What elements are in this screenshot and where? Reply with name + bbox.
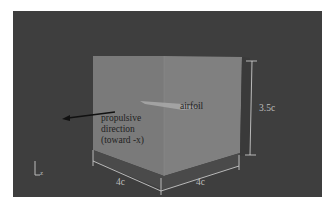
height-dimension-line bbox=[250, 61, 252, 155]
propulsive-label-line1: propulsive bbox=[101, 113, 141, 123]
axis-z-label: z bbox=[40, 168, 43, 178]
arrow-head-icon bbox=[62, 115, 70, 121]
domain-box-drawing bbox=[0, 0, 331, 207]
depth-dimension-label: 4c bbox=[116, 177, 125, 187]
width-dimension-label: 4c bbox=[196, 177, 205, 187]
propulsive-label-line2: direction bbox=[101, 124, 135, 134]
propulsive-label-line3: (toward -x) bbox=[101, 135, 144, 145]
height-dimension-label: 3.5c bbox=[259, 103, 275, 113]
airfoil-label: airfoil bbox=[180, 101, 203, 111]
